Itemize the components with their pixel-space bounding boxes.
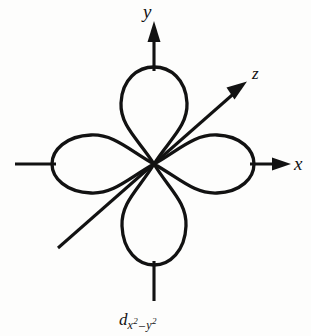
orbital-subscript: x2–y2 [128, 318, 157, 332]
orbital-diagram-svg [0, 0, 311, 336]
z-axis-label: z [252, 65, 259, 82]
x-axis-arrowhead-icon [272, 158, 291, 171]
x-axis-label: x [294, 154, 302, 173]
subscript-y-exponent: 2 [152, 316, 157, 326]
y-axis-arrowhead-icon [148, 21, 161, 42]
y-axis-label: y [143, 2, 151, 21]
orbital-caption: dx2–y2 [119, 311, 157, 331]
orbital-lobe-group [52, 67, 254, 265]
orbital-figure: y x z dx2–y2 [0, 0, 311, 336]
orbital-symbol: d [119, 310, 128, 329]
